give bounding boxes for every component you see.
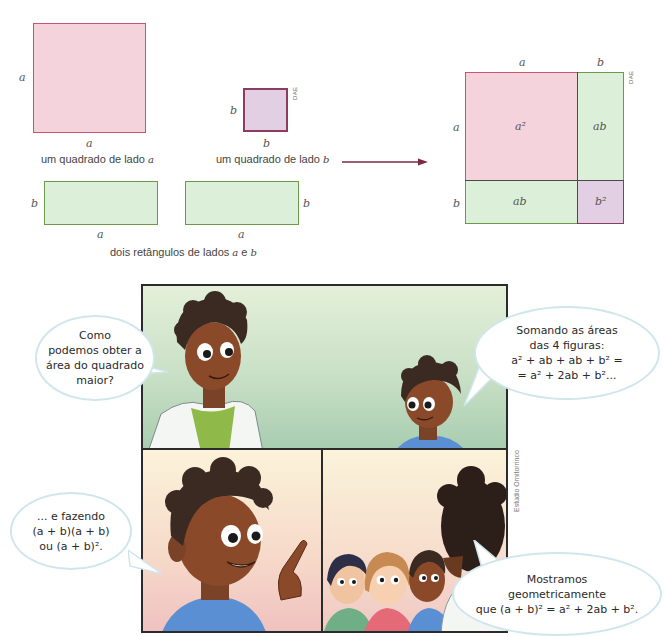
rectangle-2: [185, 181, 299, 225]
square-b: [243, 88, 288, 132]
rectangle-2-bottom-label: a: [238, 228, 245, 241]
speech-bubble-teacher-conclusion: Mostramos geometricamente que (a + b)² =…: [452, 552, 662, 636]
square-a-caption: um quadrado de lado a: [41, 153, 154, 165]
square-a-left-label: a: [19, 71, 26, 84]
composite-left-label-a: a: [453, 121, 460, 134]
rectangles-caption: dois retângulos de lados a e b: [110, 246, 257, 258]
composite-top-label-a: a: [519, 56, 526, 69]
composite-top-label-b: b: [597, 56, 604, 69]
rectangle-1-bottom-label: a: [97, 228, 104, 241]
composite-square: a² ab ab b²: [465, 72, 624, 224]
square-a-bottom-label: a: [86, 137, 93, 150]
square-b-left-label: b: [230, 104, 237, 117]
cell-ab-right-label: ab: [593, 120, 607, 133]
comic-credit: Estúdio Ornitorrinco: [513, 450, 520, 512]
composite-divider-v: [577, 72, 578, 224]
rectangle-1-side-label: b: [31, 197, 38, 210]
right-arrow-icon: [340, 153, 430, 163]
speech-bubble-student-product: ... e fazendo (a + b)(a + b) ou (a + b)²…: [10, 492, 132, 570]
comic-panel-2: [141, 448, 323, 633]
cell-ab-bottom-label: ab: [513, 195, 527, 208]
composite-left-label-b: b: [453, 197, 460, 210]
rectangle-2-side-label: b: [303, 197, 310, 210]
rectangle-1: [44, 181, 158, 225]
cell-a-squared-label: a²: [515, 120, 526, 133]
comic-panel-1: [141, 284, 508, 450]
composite-credit: DAE: [628, 71, 634, 84]
speech-bubble-student-sum: Somando as áreas das 4 figuras: a² + ab …: [474, 306, 660, 400]
square-b-credit: DAE: [292, 87, 298, 100]
speech-bubble-teacher-question: Como podemos obter a área do quadrado ma…: [35, 315, 155, 401]
pointing-boy-illustration: [143, 450, 323, 633]
square-b-bottom-label: b: [263, 137, 270, 150]
composite-divider-h: [465, 180, 624, 181]
bubble-tail-student-product: [128, 548, 168, 578]
square-a: [33, 23, 146, 133]
square-b-caption: um quadrado de lado b: [216, 153, 329, 165]
cell-b-squared-label: b²: [595, 195, 606, 208]
